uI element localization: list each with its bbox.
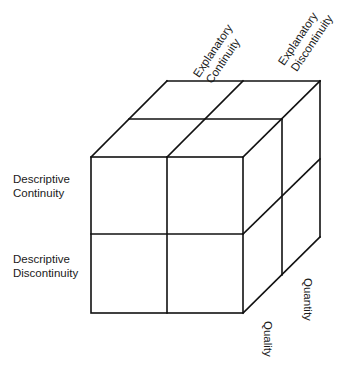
label-line: Discontinuity (13, 266, 78, 280)
label-line: Continuity (13, 186, 70, 200)
label-quantity: Quantity (301, 278, 315, 321)
label-line: Descriptive (13, 172, 70, 186)
label-line: Descriptive (13, 252, 78, 266)
label-descriptive-continuity: Descriptive Continuity (13, 172, 70, 200)
label-quality: Quality (261, 321, 275, 357)
label-descriptive-discontinuity: Descriptive Discontinuity (13, 252, 78, 280)
